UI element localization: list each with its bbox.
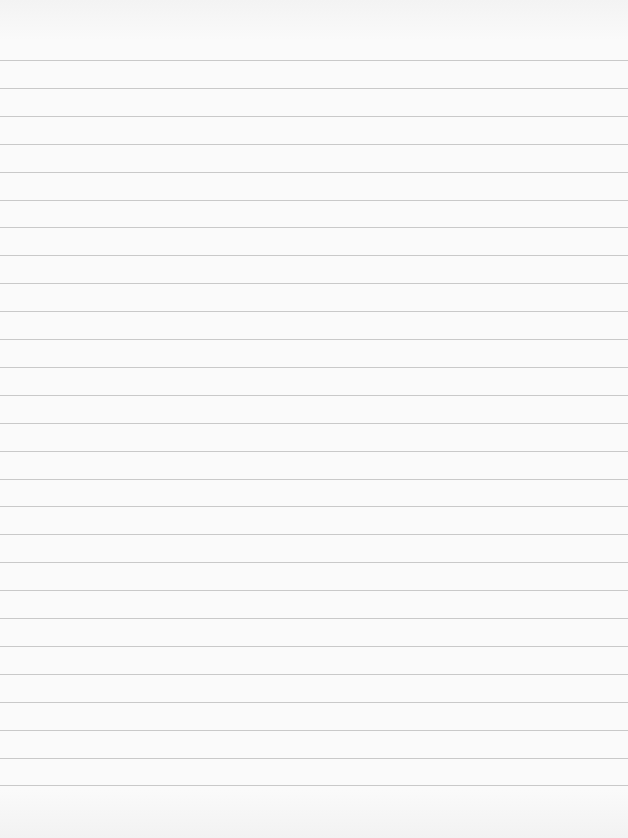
ruled-line <box>0 255 628 256</box>
ruled-line <box>0 60 628 61</box>
ruled-line <box>0 451 628 452</box>
ruled-line <box>0 88 628 89</box>
ruled-line <box>0 367 628 368</box>
ruled-line <box>0 590 628 591</box>
ruled-line <box>0 479 628 480</box>
ruled-line <box>0 200 628 201</box>
ruled-line <box>0 423 628 424</box>
ruled-line <box>0 172 628 173</box>
ruled-line <box>0 758 628 759</box>
ruled-line <box>0 534 628 535</box>
ruled-line <box>0 702 628 703</box>
ruled-line <box>0 618 628 619</box>
ruled-line <box>0 144 628 145</box>
ruled-line <box>0 506 628 507</box>
lined-paper-sheet <box>0 0 628 838</box>
ruled-line <box>0 730 628 731</box>
ruled-line <box>0 785 628 786</box>
ruled-line <box>0 116 628 117</box>
ruled-line <box>0 646 628 647</box>
ruled-line <box>0 283 628 284</box>
ruled-line <box>0 227 628 228</box>
ruled-line <box>0 311 628 312</box>
ruled-line <box>0 562 628 563</box>
ruled-line <box>0 395 628 396</box>
ruled-line <box>0 339 628 340</box>
ruled-line <box>0 674 628 675</box>
